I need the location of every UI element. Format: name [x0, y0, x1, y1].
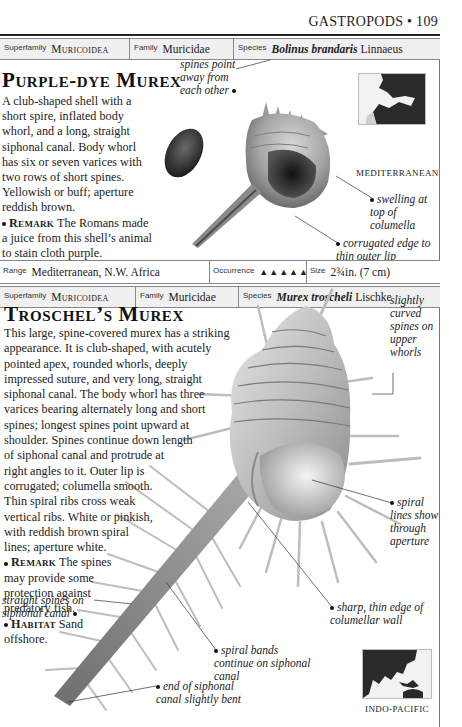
occurrence-cell: Occurrence ▲▲▲▲▲ — [210, 261, 307, 283]
range-map-indo-pacific — [362, 649, 432, 699]
map-label: MEDITERRANEAN — [356, 168, 428, 178]
entry-troschels-murex: Superfamily Muricoidea Family Muricidae … — [0, 286, 440, 727]
callout-straight-spines: straight spines on siphonal canal — [2, 594, 94, 620]
callout-spines-point: spines point away from each other — [180, 58, 250, 97]
callout-spiral-bands: spiral bands continue on siphonal canal — [214, 644, 314, 683]
entry-purple-dye-murex: Superfamily Muricoidea Family Muricidae … — [0, 38, 440, 284]
entry-footer: Range Mediterranean, N.W. Africa Occurre… — [0, 260, 440, 284]
section-title: GASTROPODS — [308, 14, 403, 29]
callout-curved-spines: slightly curved spines on upper whorls — [390, 294, 440, 359]
page-number: 109 — [416, 14, 438, 29]
range-cell: Range Mediterranean, N.W. Africa — [0, 261, 210, 283]
size-value: 2¾in. (7 cm) — [331, 266, 390, 278]
separator: • — [407, 14, 412, 29]
callout-swelling: swelling at top of columella — [370, 193, 440, 232]
callout-sharp-edge: sharp, thin edge of columellar wall — [330, 601, 440, 627]
range-map-mediterranean — [358, 73, 426, 125]
occurrence-label: Occurrence — [213, 266, 254, 275]
running-head: GASTROPODS • 109 — [308, 14, 438, 30]
callout-spiral-lines: spiral lines show through aperture — [390, 496, 440, 548]
occurrence-shell-icons: ▲▲▲▲▲ — [259, 267, 307, 277]
size-label: Size — [310, 266, 326, 275]
callout-canal-bent: end of siphonal canal slightly bent — [156, 680, 246, 706]
size-cell: Size 2¾in. (7 cm) — [307, 261, 440, 283]
header-rule — [0, 34, 440, 36]
range-value: Mediterranean, N.W. Africa — [32, 266, 160, 278]
map-label: INDO-PACIFIC — [360, 704, 434, 714]
range-label: Range — [3, 266, 27, 275]
